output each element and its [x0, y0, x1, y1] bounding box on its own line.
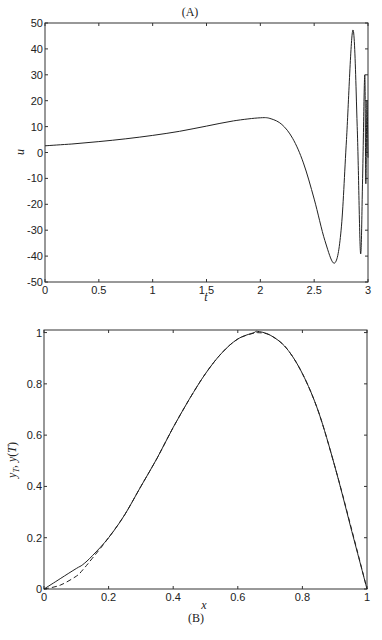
- svg-text:0.2: 0.2: [101, 591, 116, 603]
- svg-text:-10: -10: [27, 172, 43, 184]
- svg-text:-40: -40: [27, 250, 43, 262]
- svg-text:30: 30: [31, 69, 43, 81]
- svg-text:-50: -50: [27, 276, 43, 288]
- svg-text:0.6: 0.6: [230, 591, 245, 603]
- svg-text:10: 10: [31, 121, 43, 133]
- panel-b-state-curve-solid: [44, 331, 367, 589]
- svg-text:0: 0: [36, 583, 42, 595]
- svg-text:0.5: 0.5: [91, 284, 106, 296]
- panel-b-ticks: 00.20.40.60.8100.20.40.60.81: [27, 327, 370, 603]
- svg-text:0.6: 0.6: [27, 429, 42, 441]
- svg-text:40: 40: [31, 43, 43, 55]
- svg-text:50: 50: [31, 17, 43, 29]
- panel-a-ticks: 00.511.522.5350403020100-10-20-30-40-50: [27, 17, 371, 296]
- panel-b-axes-box: [44, 330, 367, 589]
- panel-b-ylabel: yT, y(T): [5, 442, 21, 479]
- panel-b-xlabel: x: [200, 598, 207, 612]
- svg-text:2: 2: [257, 284, 263, 296]
- svg-text:20: 20: [31, 95, 43, 107]
- svg-text:0.4: 0.4: [27, 480, 42, 492]
- panel-b-target-curve-dashed: [44, 332, 367, 589]
- panel-a-axes-box: [45, 23, 368, 282]
- svg-text:1: 1: [36, 327, 42, 339]
- svg-text:2.5: 2.5: [307, 284, 322, 296]
- svg-text:0.2: 0.2: [27, 532, 42, 544]
- svg-text:0.8: 0.8: [295, 591, 310, 603]
- svg-text:yT, y(T): yT, y(T): [5, 442, 21, 479]
- svg-text:0.4: 0.4: [166, 591, 181, 603]
- svg-text:1: 1: [364, 591, 370, 603]
- svg-text:0: 0: [37, 147, 43, 159]
- panel-a: (A) 00.511.522.5350403020100-10-20-30-40…: [13, 5, 371, 304]
- svg-text:1: 1: [150, 284, 156, 296]
- panel-a-ylabel: u: [13, 149, 27, 155]
- panel-a-u-curve: [45, 30, 368, 263]
- svg-text:3: 3: [365, 284, 371, 296]
- svg-text:-30: -30: [27, 224, 43, 236]
- panel-b-title: (B): [188, 611, 204, 625]
- figure: (A) 00.511.522.5350403020100-10-20-30-40…: [0, 0, 382, 640]
- panel-a-title: (A): [182, 5, 199, 19]
- svg-text:0.8: 0.8: [27, 378, 42, 390]
- svg-text:-20: -20: [27, 198, 43, 210]
- panel-b: 00.20.40.60.8100.20.40.60.81 x (B) yT, y…: [5, 327, 370, 625]
